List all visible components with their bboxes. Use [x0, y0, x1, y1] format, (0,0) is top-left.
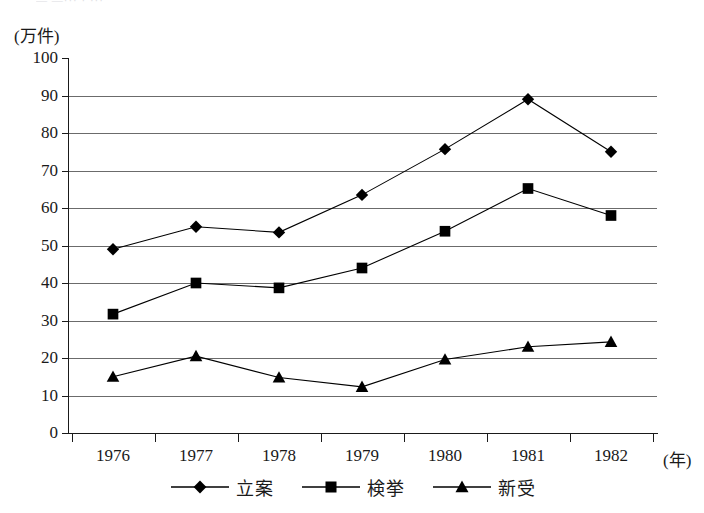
legend-item-2[interactable]: 検挙 [300, 474, 405, 500]
x-tick-label-1978: 1978 [262, 446, 296, 466]
gridline-80 [68, 133, 657, 134]
gridline-90 [68, 96, 657, 97]
y-tick-10 [62, 396, 69, 397]
y-tick-label-60: 60 [41, 199, 58, 216]
y-tick-20 [62, 358, 69, 359]
legend-label: 検挙 [367, 474, 405, 500]
x-tick-label-1980: 1980 [428, 446, 462, 466]
x-tick-4 [404, 434, 405, 442]
y-tick-label-50: 50 [41, 237, 58, 254]
x-tick-7 [653, 434, 654, 442]
gridline-40 [68, 283, 657, 284]
x-tick-0 [72, 434, 73, 442]
x-tick-label-1981: 1981 [511, 446, 545, 466]
y-tick-30 [62, 321, 69, 322]
legend-item-3[interactable]: 新受 [431, 474, 536, 500]
y-tick-0 [62, 433, 69, 434]
gridline-20 [68, 358, 657, 359]
y-axis-tick-labels: 1009080706050403020100 [0, 0, 58, 513]
plot-area [68, 58, 657, 433]
gridline-50 [68, 246, 657, 247]
x-tick-1 [155, 434, 156, 442]
y-tick-label-30: 30 [41, 312, 58, 329]
y-tick-60 [62, 208, 69, 209]
y-tick-40 [62, 283, 69, 284]
x-axis-unit-label: (年) [663, 446, 691, 471]
y-tick-80 [62, 133, 69, 134]
y-tick-label-100: 100 [33, 49, 59, 66]
diamond-icon [169, 478, 231, 496]
x-tick-6 [570, 434, 571, 442]
x-tick-5 [487, 434, 488, 442]
y-tick-label-90: 90 [41, 87, 58, 104]
gridline-70 [68, 171, 657, 172]
x-tick-label-1979: 1979 [345, 446, 379, 466]
y-tick-label-0: 0 [50, 424, 59, 441]
x-tick-label-1977: 1977 [179, 446, 213, 466]
x-tick-label-1982: 1982 [594, 446, 628, 466]
legend-item-1[interactable]: 立案 [169, 474, 274, 500]
x-tick-label-1976: 1976 [96, 446, 130, 466]
triangle-icon [431, 478, 493, 496]
cut-off-text-remnant: — —··· · ··· [36, 0, 206, 4]
y-tick-label-10: 10 [41, 387, 58, 404]
y-tick-label-40: 40 [41, 274, 58, 291]
chart-page: — —··· · ··· (万件) 1009080706050403020100… [0, 0, 704, 513]
y-tick-label-70: 70 [41, 162, 58, 179]
y-tick-70 [62, 171, 69, 172]
gridline-30 [68, 321, 657, 322]
legend-label: 新受 [498, 474, 536, 500]
x-tick-2 [238, 434, 239, 442]
y-tick-100 [62, 58, 69, 59]
y-tick-label-20: 20 [41, 349, 58, 366]
x-tick-3 [321, 434, 322, 442]
y-tick-label-80: 80 [41, 124, 58, 141]
y-tick-90 [62, 96, 69, 97]
gridline-60 [68, 208, 657, 209]
chart-legend: 立案検挙新受 [0, 474, 704, 500]
gridline-10 [68, 396, 657, 397]
y-tick-50 [62, 246, 69, 247]
legend-label: 立案 [236, 474, 274, 500]
square-icon [300, 478, 362, 496]
